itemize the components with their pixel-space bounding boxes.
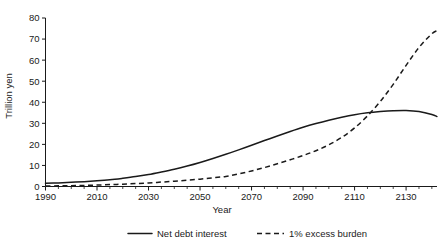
y-tick-label: 50 [29,76,40,87]
x-tick-label: 2050 [189,191,210,202]
chart-figure: 01020304050607080 1990201020302050207020… [0,0,444,247]
x-tick-label: 2090 [292,191,313,202]
legend-label-net-debt-interest: Net debt interest [157,228,227,239]
y-axis-tick-labels: 01020304050607080 [29,12,40,192]
x-axis: 19902010203020502070209021102130 [35,187,437,203]
chart-legend: Net debt interest 1% excess burden [128,228,367,239]
y-axis: 01020304050607080 [29,12,46,192]
y-tick-label: 80 [29,12,40,23]
x-axis-tick-labels: 19902010203020502070209021102130 [35,191,417,202]
data-series-group [46,31,438,186]
legend-item-net-debt-interest: Net debt interest [128,228,227,239]
y-axis-title: Trillion yen [3,73,14,119]
x-tick-label: 2010 [86,191,107,202]
legend-item-excess-burden: 1% excess burden [257,228,367,239]
y-tick-label: 10 [29,160,40,171]
y-tick-label: 20 [29,139,40,150]
x-tick-label: 2070 [241,191,262,202]
y-axis-ticks [42,18,46,187]
x-tick-label: 2030 [138,191,159,202]
x-axis-title: Year [212,204,231,215]
y-tick-label: 30 [29,118,40,129]
x-tick-label: 2110 [344,191,364,202]
series-excess-burden [46,31,438,186]
y-tick-label: 60 [29,55,40,66]
x-tick-label: 1990 [35,191,56,202]
line-chart: 01020304050607080 1990201020302050207020… [0,0,444,247]
legend-label-excess-burden: 1% excess burden [289,228,367,239]
y-tick-label: 40 [29,97,40,108]
y-tick-label: 70 [29,33,40,44]
x-tick-label: 2130 [396,191,417,202]
series-net-debt-interest [46,110,438,183]
